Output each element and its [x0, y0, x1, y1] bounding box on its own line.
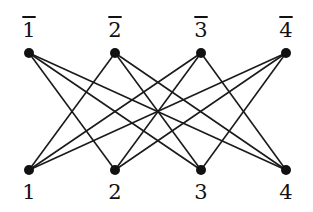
- node-4bar: [281, 48, 291, 58]
- node-label-4: 4: [279, 182, 292, 203]
- node-1bar: [24, 48, 34, 58]
- node-label-2: 2: [108, 182, 121, 203]
- node-3: [196, 165, 206, 175]
- node-label-1bar: 1: [22, 20, 35, 41]
- graph-canvas: [0, 0, 313, 212]
- crown-graph-diagram: 12341234: [0, 0, 313, 212]
- node-2bar: [110, 48, 120, 58]
- node-4: [281, 165, 291, 175]
- node-3bar: [196, 48, 206, 58]
- node-label-1: 1: [22, 182, 35, 203]
- node-1: [24, 165, 34, 175]
- node-2: [110, 165, 120, 175]
- node-label-3: 3: [194, 182, 207, 203]
- node-label-4bar: 4: [279, 20, 292, 41]
- node-label-3bar: 3: [194, 20, 207, 41]
- node-label-2bar: 2: [108, 20, 121, 41]
